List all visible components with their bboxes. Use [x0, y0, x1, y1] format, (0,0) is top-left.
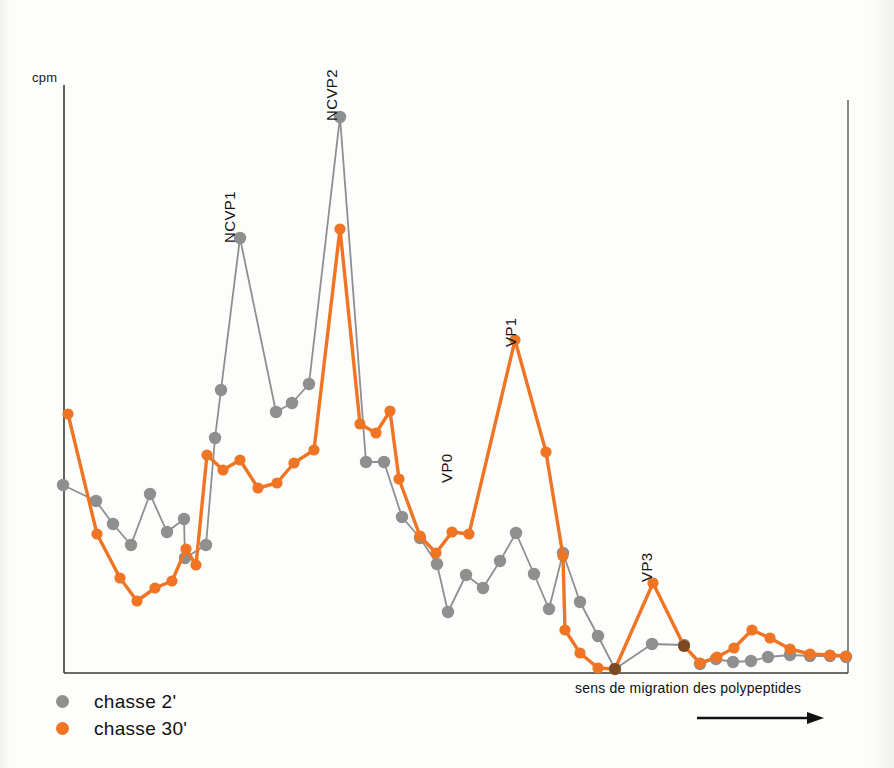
data-point: [396, 511, 408, 523]
data-point: [114, 572, 125, 583]
data-point: [166, 575, 177, 586]
data-point: [430, 547, 441, 558]
data-point: [190, 559, 201, 570]
data-point: [446, 526, 457, 537]
data-point: [288, 457, 299, 468]
data-point: [149, 582, 160, 593]
data-point: [477, 582, 489, 594]
data-point: [252, 482, 263, 493]
series-chasse-2: [57, 111, 852, 675]
legend-item-chasse-30[interactable]: chasse 30': [56, 715, 187, 742]
data-point: [180, 543, 191, 554]
data-point: [370, 427, 381, 438]
data-point: [442, 606, 454, 618]
data-point: [694, 657, 705, 668]
data-point: [764, 632, 775, 643]
overlap-data-point: [678, 640, 690, 652]
peak-label-ncvp1: NCVP1: [221, 191, 238, 243]
legend-label-chasse-30: chasse 30': [94, 718, 187, 740]
migration-caption: sens de migration des polypeptides: [575, 680, 865, 696]
data-point: [494, 555, 506, 567]
chart-legend: chasse 2' chasse 30': [56, 688, 187, 742]
data-point: [131, 595, 142, 606]
data-point: [528, 568, 540, 580]
data-point: [378, 456, 390, 468]
data-point: [303, 378, 315, 390]
data-point: [460, 569, 472, 581]
data-point: [62, 408, 73, 419]
data-point: [745, 655, 757, 667]
data-point: [762, 651, 774, 663]
legend-marker-gray: [56, 695, 69, 708]
migration-direction-block: sens de migration des polypeptides: [575, 680, 865, 726]
data-point: [559, 624, 570, 635]
data-point: [592, 662, 603, 673]
data-point: [107, 518, 119, 530]
data-point: [215, 384, 227, 396]
data-point: [270, 406, 282, 418]
series-line: [68, 229, 846, 669]
data-point: [824, 649, 835, 660]
legend-label-chasse-2: chasse 2': [94, 691, 176, 713]
legend-item-chasse-2[interactable]: chasse 2': [56, 688, 187, 715]
data-point: [286, 397, 298, 409]
data-point: [217, 464, 228, 475]
data-point: [271, 477, 282, 488]
data-point: [574, 647, 585, 658]
data-point: [91, 528, 102, 539]
data-point: [178, 513, 190, 525]
arrow-right-icon: [575, 710, 865, 726]
data-point: [393, 473, 404, 484]
data-point: [463, 528, 474, 539]
overlap-data-point: [609, 663, 621, 675]
data-point: [728, 642, 739, 653]
data-point: [161, 526, 173, 538]
data-point: [574, 596, 586, 608]
legend-marker-orange: [56, 722, 69, 735]
data-point: [746, 624, 757, 635]
figure-page: cpm NCVP1NCVP2VP0VP1VP3 chasse 2' chasse…: [0, 0, 894, 768]
chart-series-layer: [57, 111, 852, 675]
peak-label-ncvp2: NCVP2: [323, 69, 340, 121]
data-point: [354, 418, 365, 429]
data-point: [727, 656, 739, 668]
line-chart-plot: [0, 0, 894, 768]
series-chasse-30: [62, 223, 851, 674]
data-point: [646, 638, 658, 650]
data-point: [540, 446, 551, 457]
data-point: [784, 643, 795, 654]
data-point: [200, 539, 212, 551]
data-point: [209, 432, 221, 444]
data-point: [234, 454, 245, 465]
data-point: [308, 444, 319, 455]
data-point: [334, 223, 345, 234]
data-point: [414, 530, 425, 541]
peak-label-vp0: VP0: [438, 453, 455, 483]
data-point: [543, 603, 555, 615]
data-point: [840, 650, 851, 661]
data-point: [144, 488, 156, 500]
data-point: [201, 449, 212, 460]
data-point: [125, 539, 137, 551]
data-point: [57, 479, 69, 491]
data-point: [384, 405, 395, 416]
data-point: [510, 527, 522, 539]
series-line: [63, 117, 846, 669]
data-point: [557, 550, 568, 561]
data-point: [360, 456, 372, 468]
chart-axes: [64, 85, 848, 673]
data-point: [592, 630, 604, 642]
data-point: [431, 558, 443, 570]
peak-label-vp3: VP3: [638, 552, 655, 582]
data-point: [711, 651, 722, 662]
data-point: [804, 648, 815, 659]
peak-label-vp1: VP1: [502, 317, 519, 347]
